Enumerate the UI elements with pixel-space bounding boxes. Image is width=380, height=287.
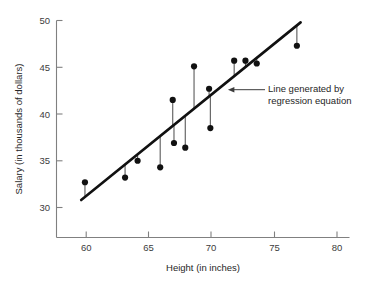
data-point (170, 97, 176, 103)
y-axis-title: Salary (in thousands of dollars) (13, 64, 24, 195)
y-tick-label-30: 30 (39, 202, 50, 213)
data-point (82, 179, 88, 185)
regression-scatter-chart: 50 45 40 35 30 60 65 70 75 80 Height (in… (0, 0, 380, 287)
data-point (254, 60, 260, 66)
y-tick-label-50: 50 (39, 15, 50, 26)
data-point (294, 43, 300, 49)
annotation-line-2: regression equation (268, 95, 351, 106)
plot-area: 50 45 40 35 30 60 65 70 75 80 Height (in… (0, 0, 380, 287)
data-point (122, 174, 128, 180)
x-tick-label-70: 70 (206, 242, 217, 253)
data-point (171, 140, 177, 146)
y-axis-ticks (57, 21, 63, 208)
x-tick-label-65: 65 (143, 242, 154, 253)
x-axis-ticks (86, 232, 337, 238)
y-tick-label-40: 40 (39, 109, 50, 120)
annotation-line-1: Line generated by (268, 83, 344, 94)
data-point (206, 86, 212, 92)
x-tick-label-75: 75 (269, 242, 280, 253)
data-point (135, 158, 141, 164)
data-points (82, 43, 300, 186)
x-axis-tick-labels: 60 65 70 75 80 (81, 242, 342, 253)
x-tick-label-80: 80 (332, 242, 343, 253)
data-point (157, 164, 163, 170)
callout-arrow-head (228, 87, 235, 93)
x-tick-label-60: 60 (81, 242, 92, 253)
x-axis-title: Height (in inches) (166, 262, 240, 273)
data-point (182, 145, 188, 151)
y-tick-label-35: 35 (39, 155, 50, 166)
data-point (242, 58, 248, 64)
regression-line (81, 22, 300, 200)
data-point (231, 58, 237, 64)
annotation-callout: Line generated by regression equation (228, 83, 352, 106)
y-tick-label-45: 45 (39, 62, 50, 73)
data-point (191, 63, 197, 69)
data-point (207, 125, 213, 131)
y-axis-tick-labels: 50 45 40 35 30 (39, 15, 50, 213)
